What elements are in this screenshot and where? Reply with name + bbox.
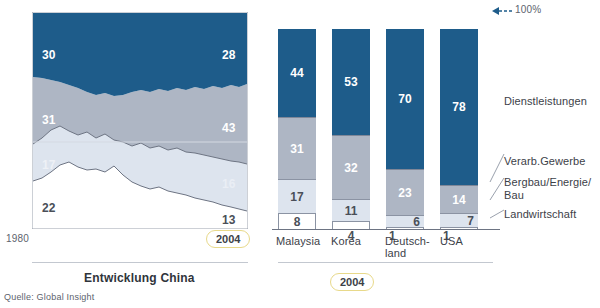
bar-usa-services: 78 xyxy=(440,29,478,185)
area-label-mining-end: 16 xyxy=(222,177,236,191)
legend-label-manufacturing: Verarb.Gewerbe xyxy=(504,155,586,168)
area-services xyxy=(33,13,247,96)
bar-malaysia-mining: 17 xyxy=(278,179,316,213)
bar-korea-agriculture: 4 xyxy=(332,221,370,229)
area-label-agriculture-start: 22 xyxy=(42,201,56,215)
country-bar-chart: 44 31 17 8 53 32 11 4 xyxy=(272,12,500,229)
infographic-canvas: 30 31 17 22 28 43 16 13 1980 2004 44 31 … xyxy=(0,0,600,308)
caption-rule-right xyxy=(278,262,493,263)
bar-malaysia-manufacturing: 31 xyxy=(278,117,316,179)
area-label-agriculture-end: 13 xyxy=(222,213,236,227)
bar-malaysia-services: 44 xyxy=(278,29,316,117)
axis-label-end-year-pill: 2004 xyxy=(206,229,250,248)
legend-label-mining: Bergbau/Energie/ Bau xyxy=(504,176,591,202)
axis-label-start-year: 1980 xyxy=(6,233,29,244)
china-area-chart: 30 31 17 22 28 43 16 13 xyxy=(32,12,248,229)
area-chart-svg: 30 31 17 22 28 43 16 13 xyxy=(32,12,248,229)
area-label-services-end: 28 xyxy=(222,48,236,62)
area-label-mining-start: 17 xyxy=(42,158,56,172)
top-percent-label: 100% xyxy=(515,4,541,15)
area-label-manufacturing-start: 31 xyxy=(42,113,56,127)
bar-deutschland[interactable]: 70 23 6 1 xyxy=(386,29,424,229)
bar-korea[interactable]: 53 32 11 4 xyxy=(332,29,370,229)
bar-deutschland-mining: 6 xyxy=(386,215,424,227)
bar-korea-mining: 11 xyxy=(332,199,370,221)
area-label-manufacturing-end: 43 xyxy=(222,121,236,135)
bar-malaysia[interactable]: 44 31 17 8 xyxy=(278,29,316,229)
xlabel-usa: USA xyxy=(440,235,492,247)
area-label-services-start: 30 xyxy=(42,48,56,62)
bar-korea-manufacturing: 32 xyxy=(332,135,370,199)
bar-deutschland-services: 70 xyxy=(386,29,424,169)
xlabel-korea: Korea xyxy=(331,235,383,247)
legend-label-services: Dienstleistungen xyxy=(504,95,587,108)
bar-korea-services: 53 xyxy=(332,29,370,135)
source-note: Quelle: Global Insight xyxy=(4,292,94,302)
caption-2004-pill-text: 2004 xyxy=(330,273,374,291)
arrow-left-icon xyxy=(492,6,512,16)
caption-entwicklung-china: Entwicklung China xyxy=(84,271,195,285)
bar-usa-mining: 7 xyxy=(440,213,478,227)
bar-usa-manufacturing: 14 xyxy=(440,185,478,213)
caption-2004-pill: 2004 xyxy=(330,272,374,291)
bar-deutschland-manufacturing: 23 xyxy=(386,169,424,215)
bar-chart-baseline xyxy=(272,229,500,230)
xlabel-deutschland: Deutsch- land xyxy=(385,235,439,259)
bar-usa[interactable]: 78 14 7 1 xyxy=(440,29,478,229)
xlabel-malaysia: Malaysia xyxy=(276,235,328,247)
caption-rule-left xyxy=(32,262,248,263)
legend-label-agriculture: Landwirtschaft xyxy=(504,208,576,221)
end-year-pill-text: 2004 xyxy=(206,230,250,248)
bar-malaysia-agriculture: 8 xyxy=(278,213,316,229)
